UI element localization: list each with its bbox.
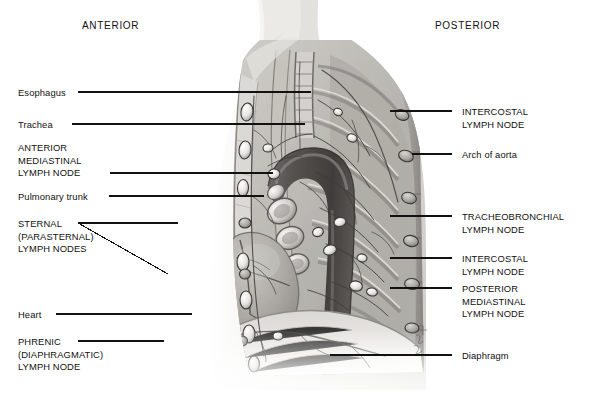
label-phrenic: PHRENIC(DIAPHRAGMATIC)LYMPH NODE — [18, 336, 103, 374]
label-line: LYMPH NODE — [18, 167, 82, 180]
label-line: LYMPH NODE — [462, 266, 528, 279]
label-line: Trachea — [18, 119, 53, 132]
label-line: INTERCOSTAL — [462, 253, 528, 266]
label-intercostal-upper: INTERCOSTALLYMPH NODE — [462, 106, 528, 131]
label-diaphragm: Diaphragm — [462, 350, 509, 363]
orientation-label-anterior: ANTERIOR — [82, 20, 139, 31]
label-line: LYMPH NODE — [462, 308, 526, 321]
label-line: INTERCOSTAL — [462, 106, 528, 119]
label-line: LYMPH NODES — [18, 243, 94, 256]
label-line: Esophagus — [18, 87, 66, 100]
label-line: ANTERIOR — [18, 142, 82, 155]
label-esophagus: Esophagus — [18, 87, 66, 100]
label-line: LYMPH NODE — [462, 119, 528, 132]
label-pulmonary-trunk: Pulmonary trunk — [18, 191, 88, 204]
label-heart: Heart — [18, 309, 41, 322]
label-line: Arch of aorta — [462, 149, 517, 162]
label-intercostal-lower: INTERCOSTALLYMPH NODE — [462, 253, 528, 278]
figure-canvas: ANTERIOR POSTERIOR EsophagusTracheaANTER… — [0, 0, 591, 407]
label-tracheobronchial: TRACHEOBRONCHIALLYMPH NODE — [462, 211, 564, 236]
label-trachea: Trachea — [18, 119, 53, 132]
label-line: LYMPH NODE — [18, 361, 103, 374]
label-line: LYMPH NODE — [462, 224, 564, 237]
label-line: POSTERIOR — [462, 283, 526, 296]
label-line: TRACHEOBRONCHIAL — [462, 211, 564, 224]
label-line: Heart — [18, 309, 41, 322]
label-line: PHRENIC — [18, 336, 103, 349]
label-line: MEDIASTINAL — [18, 155, 82, 168]
label-line: Diaphragm — [462, 350, 509, 363]
label-anterior-mediastinal: ANTERIORMEDIASTINALLYMPH NODE — [18, 142, 82, 180]
label-arch-of-aorta: Arch of aorta — [462, 149, 517, 162]
label-line: (PARASTERNAL) — [18, 231, 94, 244]
label-sternal: STERNAL(PARASTERNAL)LYMPH NODES — [18, 218, 94, 256]
label-line: Pulmonary trunk — [18, 191, 88, 204]
orientation-label-posterior: POSTERIOR — [435, 20, 500, 31]
label-line: STERNAL — [18, 218, 94, 231]
label-line: MEDIASTINAL — [462, 296, 526, 309]
label-posterior-mediastinal: POSTERIORMEDIASTINALLYMPH NODE — [462, 283, 526, 321]
label-line: (DIAPHRAGMATIC) — [18, 349, 103, 362]
